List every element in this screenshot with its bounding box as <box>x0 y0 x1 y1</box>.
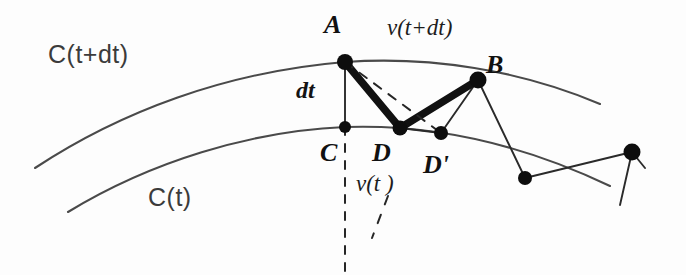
figure-root: C(t+dt) C(t) A B C D D' dt v(t ) v(t+dt) <box>0 0 686 275</box>
curve-label-c-t: C(t) <box>148 185 192 210</box>
point-label-a: A <box>324 12 341 38</box>
segment-e-to-f <box>525 152 632 178</box>
velocity-label-v-t: v(t ) <box>356 172 394 195</box>
segment-b-to-e <box>478 80 525 178</box>
thick-polyline-a-d-b <box>345 62 478 128</box>
node-point-f <box>624 144 641 161</box>
curve-label-c-t-plus-dt: C(t+dt) <box>48 42 129 67</box>
offset-label-dt: dt <box>296 78 315 102</box>
dashed-velocity-t-ray <box>372 196 388 238</box>
curve-upper-c-t-plus-dt <box>35 61 600 168</box>
node-point-d-prime <box>434 126 448 140</box>
node-point-a <box>337 54 353 70</box>
point-label-d-prime: D' <box>423 152 449 178</box>
node-point-d <box>393 121 408 136</box>
point-label-d: D <box>372 140 391 166</box>
node-point-b <box>470 72 487 89</box>
point-label-b: B <box>486 52 503 78</box>
node-point-e <box>518 171 532 185</box>
point-label-c: C <box>320 140 337 166</box>
velocity-label-v-t-plus-dt: v(t+dt) <box>387 16 452 39</box>
node-point-c <box>339 121 351 133</box>
